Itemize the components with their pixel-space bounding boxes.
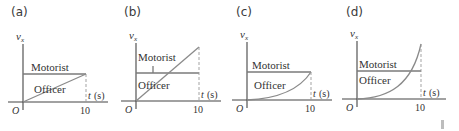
- y-axis-label: vx: [240, 28, 249, 42]
- tick-10-label: 10: [193, 104, 203, 115]
- y-axis-label: vx: [16, 30, 25, 44]
- motorist-label: Motorist: [252, 59, 290, 71]
- graph-a: vx Motorist Officer t (s) O 10: [0, 0, 113, 131]
- officer-label: Officer: [34, 83, 66, 95]
- panel-c: (c) vx Motorist Officer t (s) O 10: [224, 0, 337, 131]
- origin-label: O: [236, 103, 243, 114]
- officer-label: Officer: [359, 74, 391, 86]
- y-axis-label: vx: [350, 27, 359, 41]
- x-axis-var: t: [423, 87, 426, 98]
- origin-label: O: [125, 104, 132, 115]
- x-axis-unit: (s): [207, 89, 218, 101]
- x-axis-unit: (s): [94, 90, 105, 102]
- officer-label: Officer: [138, 79, 170, 91]
- panel-b: (b) vx Motorist Officer t (s) O 10: [113, 0, 226, 131]
- graph-c: vx Motorist Officer t (s) O 10: [224, 0, 337, 131]
- x-axis-unit: (s): [429, 87, 440, 99]
- tick-10-label: 10: [80, 105, 90, 116]
- graph-d: vx Motorist Officer t (s) O 10: [334, 0, 459, 131]
- panel-a: (a) vx Motorist Officer t (s) O 10: [0, 0, 113, 131]
- y-axis-label: vx: [129, 29, 138, 43]
- x-axis-var: t: [201, 89, 204, 100]
- officer-label: Officer: [254, 79, 286, 91]
- panel-d: (d) vx Motorist Officer t (s) O 10: [334, 0, 447, 131]
- tick-10-label: 10: [305, 103, 315, 114]
- x-axis-unit: (s): [319, 88, 330, 100]
- corner-mark: [441, 120, 444, 129]
- x-axis-var: t: [313, 88, 316, 99]
- tick-10-label: 10: [415, 102, 425, 113]
- motorist-label: Motorist: [31, 61, 69, 73]
- motorist-label: Motorist: [359, 58, 397, 70]
- origin-label: O: [346, 102, 353, 113]
- origin-label: O: [12, 105, 19, 116]
- graph-b: vx Motorist Officer t (s) O 10: [113, 0, 226, 131]
- motorist-label: Motorist: [138, 51, 176, 63]
- x-axis-var: t: [88, 90, 91, 101]
